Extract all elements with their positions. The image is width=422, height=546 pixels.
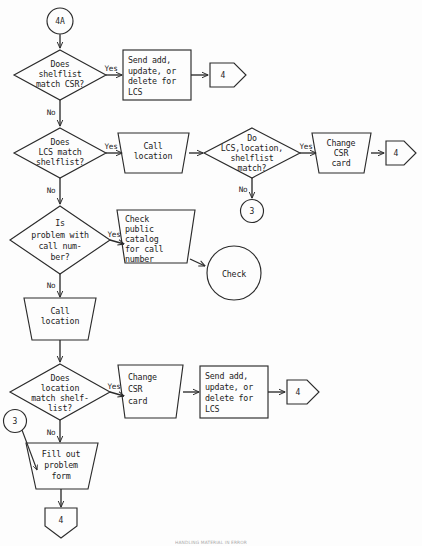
- node-decision-shelflist-csr: Does shelflist match CSR?: [14, 50, 106, 100]
- node-manual-call-location-mid: Call location: [24, 298, 96, 340]
- decision5-line1: Does: [50, 373, 69, 383]
- edge-label-no-2: No: [47, 186, 56, 195]
- node-connector-4-row2: 4: [386, 141, 416, 165]
- node-connector-4-row3: 4: [287, 380, 319, 404]
- footer-caption: HANDLING MATERIAL IN ERROR: [0, 540, 422, 545]
- node-decision-lcs-shelflist: Does LCS match shelflist?: [14, 128, 106, 178]
- edge-label-no-4: No: [47, 281, 56, 290]
- decision2-line3: shelflist?: [36, 157, 84, 167]
- call-location-mid-line2: location: [41, 316, 80, 326]
- node-start-connector-4a: 4A: [47, 8, 73, 34]
- terminator-check-label: Check: [222, 269, 246, 279]
- decision4-line3: call num-: [38, 241, 81, 251]
- fill-form-line3: form: [51, 471, 70, 481]
- node-process-send-lcs-top: Send add, update, or delete for LCS: [123, 50, 191, 100]
- change-csr-bottom-line2: CSR: [128, 384, 143, 394]
- decision4-line4: ber?: [50, 252, 69, 262]
- node-manual-fill-problem-form: Fill out problem form: [26, 443, 98, 489]
- call-location-mid-line1: Call: [50, 306, 69, 316]
- check-catalog-line5: number: [125, 254, 154, 264]
- decision2-line2: LCS match: [38, 147, 81, 157]
- decision3-line4: match?: [238, 163, 267, 173]
- node-manual-change-csr-bottom: Change CSR card: [118, 365, 183, 418]
- connector-3-bottom-label: 3: [13, 417, 18, 426]
- decision5-line2: location: [41, 383, 80, 393]
- check-catalog-line4: for call: [125, 244, 164, 254]
- node-terminator-check: Check: [207, 246, 261, 300]
- change-csr-top-line1: Change: [327, 138, 356, 148]
- call-location-top-line2: location: [134, 151, 173, 161]
- check-catalog-line3: catalog: [125, 234, 159, 244]
- send-lcs-bottom-line4: LCS: [205, 404, 220, 414]
- call-location-top-line1: Call: [143, 141, 162, 151]
- flowchart-svg: 4A Does shelflist match CSR? Yes Send ad…: [0, 0, 422, 546]
- change-csr-top-line2: CSR: [334, 148, 349, 158]
- decision1-line2: shelflist: [38, 69, 81, 79]
- edge-label-yes-1: Yes: [104, 64, 117, 73]
- fill-form-line2: problem: [44, 460, 78, 470]
- connector-4-row2-label: 4: [394, 149, 399, 158]
- decision1-line1: Does: [50, 59, 69, 69]
- send-lcs-bottom-line1: Send add,: [205, 371, 248, 381]
- connector-4-end-label: 4: [59, 516, 64, 525]
- edge-connector3-to-fill-form: [22, 430, 37, 470]
- send-lcs-bottom-line2: update, or: [205, 382, 253, 392]
- node-decision-lcs-location-shelflist: Do LCS,location, shelflist match?: [204, 128, 300, 178]
- change-csr-top-line3: card: [331, 158, 350, 168]
- node-connector-3-row2: 3: [241, 200, 264, 223]
- edge-label-yes-5: Yes: [107, 382, 120, 391]
- node-process-send-lcs-bottom: Send add, update, or delete for LCS: [200, 366, 268, 418]
- edge-label-no-3: No: [239, 185, 248, 194]
- node-connector-4-end: 4: [45, 508, 77, 538]
- edge-label-yes-4: Yes: [107, 230, 120, 239]
- send-lcs-top-line2: update, or: [128, 66, 176, 76]
- fill-form-line1: Fill out: [42, 449, 81, 459]
- node-decision-call-number: Is problem with call num- ber?: [10, 206, 110, 274]
- edge-label-no-1: No: [47, 108, 56, 117]
- decision4-line2: problem with: [31, 230, 89, 240]
- node-manual-check-catalog: Check public catalog for call number: [117, 210, 195, 264]
- decision3-line2: LCS,location,: [221, 143, 283, 153]
- connector-4-row3-label: 4: [296, 388, 301, 397]
- start-connector-label: 4A: [55, 17, 65, 26]
- decision5-line3: match shelf-: [31, 393, 89, 403]
- node-decision-location-shelflist: Does location match shelf- list?: [10, 364, 110, 420]
- edge-label-yes-3: Yes: [299, 142, 312, 151]
- change-csr-bottom-line1: Change: [128, 372, 157, 382]
- node-manual-call-location-top: Call location: [118, 133, 189, 173]
- connector-4-top-label: 4: [221, 71, 226, 80]
- decision5-line4: list?: [48, 403, 72, 413]
- send-lcs-top-line1: Send add,: [128, 55, 171, 65]
- decision1-line3: match CSR?: [36, 79, 84, 89]
- connector-3-row2-label: 3: [250, 207, 255, 216]
- decision2-line1: Does: [50, 137, 69, 147]
- send-lcs-top-line3: delete for: [128, 76, 176, 86]
- send-lcs-bottom-line3: delete for: [205, 393, 253, 403]
- decision4-line1: Is: [55, 218, 65, 228]
- decision3-line1: Do: [247, 133, 257, 143]
- send-lcs-top-line4: LCS: [128, 87, 143, 97]
- edge-check-catalog-to-check: [190, 259, 205, 266]
- change-csr-bottom-line3: card: [128, 396, 147, 406]
- edge-label-no-5: No: [47, 428, 56, 437]
- node-connector-3-bottom: 3: [4, 410, 27, 433]
- node-manual-change-csr-top: Change CSR card: [312, 133, 371, 173]
- check-catalog-line2: public: [125, 224, 154, 234]
- edge-label-yes-2: Yes: [104, 142, 117, 151]
- node-connector-4-top: 4: [210, 63, 246, 87]
- check-catalog-line1: Check: [125, 214, 149, 224]
- decision3-line3: shelflist: [230, 153, 273, 163]
- flowchart-canvas: 4A Does shelflist match CSR? Yes Send ad…: [0, 0, 422, 546]
